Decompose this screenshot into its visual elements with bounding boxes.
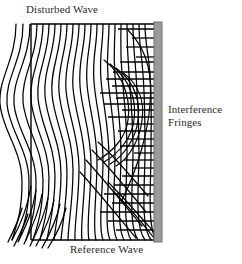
label-disturbed-wave: Disturbed Wave: [26, 3, 98, 16]
label-interference-fringes-line2: Fringes: [168, 116, 202, 128]
wavefront-curve: [0, 24, 22, 240]
bulge-curve: [98, 142, 148, 196]
wavefront-curve: [114, 24, 124, 240]
disturbed-wave-bulge-curves: [80, 30, 154, 238]
screen-bar: [154, 22, 162, 242]
detector-screen: [154, 22, 162, 242]
wave-diagram-canvas: [0, 0, 242, 264]
bulge-curve: [108, 182, 154, 232]
wavefront-curve: [107, 24, 117, 240]
label-interference-fringes-line1: Interference: [168, 103, 222, 115]
wavefront-curve: [100, 24, 110, 240]
label-interference-fringes: InterferenceFringes: [168, 103, 222, 128]
label-reference-wave: Reference Wave: [70, 243, 143, 256]
interference-fringes-figure: Disturbed Wave Reference Wave Interferen…: [0, 0, 242, 264]
